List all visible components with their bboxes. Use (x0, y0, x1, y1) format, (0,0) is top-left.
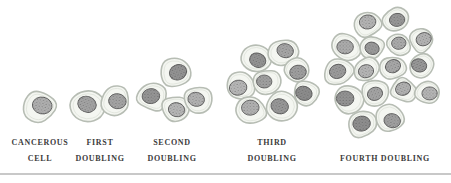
label-third-doubling: THIRD DOUBLING (228, 135, 316, 167)
cluster-second-doubling (136, 58, 211, 121)
label-line (318, 135, 451, 151)
cluster-cancerous-cell (23, 91, 56, 122)
label-line: SECOND (128, 135, 216, 151)
label-fourth-doubling: FOURTH DOUBLING (318, 135, 451, 167)
label-line: DOUBLING (228, 151, 316, 167)
label-line: DOUBLING (128, 151, 216, 167)
cluster-third-doubling (227, 40, 319, 123)
cell-doubling-diagram: CANCEROUS CELL FIRST DOUBLING SECOND DOU… (0, 0, 451, 183)
bottom-divider (0, 173, 451, 175)
cluster-first-doubling (70, 86, 128, 122)
cluster-fourth-doubling (325, 7, 439, 137)
label-line: FOURTH DOUBLING (318, 151, 451, 167)
label-line: THIRD (228, 135, 316, 151)
label-second-doubling: SECOND DOUBLING (128, 135, 216, 167)
